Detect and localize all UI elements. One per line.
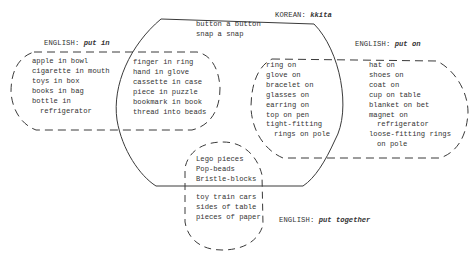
list-item: tight-fitting <box>266 120 330 130</box>
list-item: earring on <box>266 101 330 111</box>
list-item: apple in bowl <box>32 57 110 67</box>
put-in-term: put in <box>84 39 110 47</box>
list-item: shoes on <box>369 71 451 81</box>
kkita-language: KOREAN: <box>275 11 306 19</box>
list-item: toy train cars <box>196 193 261 203</box>
list-item: sides of table <box>196 203 261 213</box>
put-together-term: put together <box>319 216 371 224</box>
list-item: refrigerator <box>32 107 110 117</box>
put-together-exclusive-list: toy train cars sides of table pieces of … <box>196 193 261 223</box>
list-item: cigarette in mouth <box>32 67 110 77</box>
list-item: cassette in case <box>133 78 206 88</box>
put-on-label: ENGLISH: put on <box>355 40 421 49</box>
put-in-language: ENGLISH: <box>44 39 79 47</box>
put-on-exclusive-list: hat on shoes on coat on cup on table bla… <box>369 61 451 150</box>
list-item: hat on <box>369 61 451 71</box>
list-item: piece in puzzle <box>133 88 206 98</box>
list-item: glasses on <box>266 91 330 101</box>
list-item: Bristle-blocks <box>196 175 256 185</box>
list-item: finger in ring <box>133 58 206 68</box>
list-item: refrigerator <box>369 120 451 130</box>
list-item: on pole <box>369 140 451 150</box>
put-on-kkita-overlap-list: ring on glove on bracelet on glasses on … <box>266 61 330 140</box>
list-item: ring on <box>266 61 330 71</box>
list-item: magnet on <box>369 111 451 121</box>
list-item: coat on <box>369 81 451 91</box>
list-item: top on pen <box>266 111 330 121</box>
put-together-label: ENGLISH: put together <box>279 216 370 225</box>
list-item: Pop-beads <box>196 165 256 175</box>
kkita-label: KOREAN: kkita <box>275 11 332 20</box>
list-item: loose-fitting rings <box>369 130 451 140</box>
put-in-exclusive-list: apple in bowl cigarette in mouth toys in… <box>32 57 110 116</box>
list-item: pieces of paper <box>196 213 261 223</box>
list-item: Lego pieces <box>196 155 256 165</box>
list-item: bookmark in book <box>133 98 206 108</box>
list-item: books in bag <box>32 87 110 97</box>
list-item: bracelet on <box>266 81 330 91</box>
put-together-kkita-overlap-list: Lego pieces Pop-beads Bristle-blocks <box>196 155 256 185</box>
put-in-kkita-overlap-list: finger in ring hand in glove cassette in… <box>133 58 206 117</box>
list-item: toys in box <box>32 77 110 87</box>
list-item: blanket on bet <box>369 101 451 111</box>
put-in-label: ENGLISH: put in <box>44 39 110 48</box>
kkita-exclusive-list: button a button snap a snap <box>196 20 261 40</box>
list-item: rings on pole <box>266 130 330 140</box>
put-on-language: ENGLISH: <box>355 40 390 48</box>
list-item: cup on table <box>369 91 451 101</box>
put-on-term: put on <box>395 40 421 48</box>
list-item: button a button <box>196 20 261 30</box>
put-together-language: ENGLISH: <box>279 216 314 224</box>
kkita-term: kkita <box>310 11 332 19</box>
list-item: hand in glove <box>133 68 206 78</box>
list-item: glove on <box>266 71 330 81</box>
list-item: bottle in <box>32 97 110 107</box>
list-item: snap a snap <box>196 30 261 40</box>
list-item: thread into beads <box>133 108 206 118</box>
